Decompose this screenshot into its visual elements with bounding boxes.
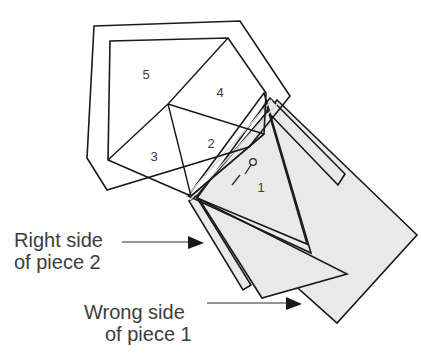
callout-right-side-piece-2: Right side of piece 2 [14,229,204,273]
piece-label-5: 5 [142,67,149,82]
callout-right-side-line-1: Right side [14,229,103,251]
piece-label-2: 2 [207,136,214,151]
seam-line-5-3 [108,104,168,160]
piece-label-3: 3 [150,149,157,164]
seam-line-2-4 [168,104,264,134]
callout-wrong-side-line-2: of piece 1 [105,323,192,345]
shaded-pieces-group [189,98,417,323]
piece-label-4: 4 [216,85,223,100]
callout-wrong-side-line-1: Wrong side [84,301,185,323]
callout-wrong-side-piece-1: Wrong side of piece 1 [84,297,302,345]
callout-right-side-line-2: of piece 2 [14,251,101,273]
piecing-diagram: 5 4 3 2 1 Right side of piece 2 Wrong si… [0,0,421,353]
piece-label-1: 1 [257,180,264,195]
figure-canvas: 5 4 3 2 1 Right side of piece 2 Wrong si… [0,0,421,353]
callout-right-side-arrowhead [188,236,204,249]
callout-wrong-side-arrowhead [286,297,302,310]
seam-line-3-2 [168,104,191,196]
